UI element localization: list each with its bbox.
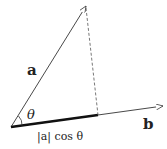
label-vector-a: a [27, 61, 37, 79]
label-vector-b: b [143, 115, 154, 133]
label-angle-theta: θ [27, 107, 35, 122]
perpendicular-dashed-line [86, 8, 98, 115]
projection-diagram: a θ b |a| cos θ [0, 0, 167, 149]
vector-a-arrow [11, 6, 86, 127]
projection-segment [11, 115, 98, 127]
label-projection: |a| cos θ [37, 130, 83, 144]
angle-arc [19, 116, 23, 126]
